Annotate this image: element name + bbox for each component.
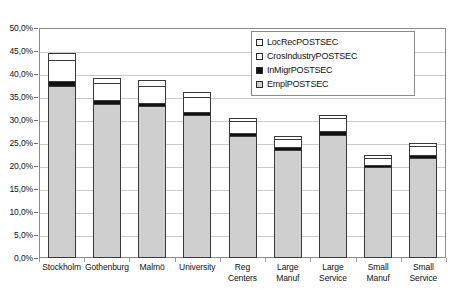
y-tick-mark (34, 28, 38, 29)
y-tick-mark (34, 97, 38, 98)
x-tick-mark (39, 258, 40, 262)
y-tick-mark (34, 51, 38, 52)
x-tick-label: Gothenburg (84, 262, 129, 273)
y-tick-mark (34, 212, 38, 213)
x-tick-label-line1: Large (265, 262, 310, 273)
x-tick-label-line1: Small (356, 262, 401, 273)
y-tick-label: 50,0% (9, 24, 33, 33)
x-tick-mark (220, 258, 221, 262)
legend-label: EmplPOSTSEC (267, 79, 328, 89)
x-tick-label: SmallService (401, 262, 446, 283)
legend-item[interactable]: CrosIndustryPOSTSEC (256, 49, 410, 63)
bar-segment-crosindustrypostsec[interactable] (48, 60, 76, 81)
x-tick-label: RegCenters (220, 262, 265, 283)
bar-stack[interactable] (364, 155, 392, 258)
y-tick-mark (34, 258, 38, 259)
x-tick-mark (356, 258, 357, 262)
x-tick-label: SmallManuf (356, 262, 401, 283)
y-tick-label: 45,0% (9, 47, 33, 56)
bar-stack[interactable] (409, 143, 437, 258)
y-tick-label: 35,0% (9, 93, 33, 102)
bar-stack[interactable] (93, 78, 121, 258)
white-square-icon (256, 53, 263, 60)
bar-stack[interactable] (183, 92, 211, 258)
legend-label: LocRecPOSTSEC (267, 37, 338, 47)
bar-segment-crosindustrypostsec[interactable] (274, 139, 302, 147)
bar-segment-crosindustrypostsec[interactable] (183, 97, 211, 112)
x-tick-label-line1: Malmö (129, 262, 174, 273)
x-tick-mark (401, 258, 402, 262)
x-tick-label: LargeService (310, 262, 355, 283)
x-tick-mark (446, 258, 447, 262)
x-tick-label: Malmö (129, 262, 174, 273)
y-tick-label: 10,0% (9, 208, 33, 217)
y-tick-label: 5,0% (14, 231, 33, 240)
y-tick-label: 40,0% (9, 70, 33, 79)
bar-segment-crosindustrypostsec[interactable] (138, 86, 166, 103)
bar-segment-locrecpostsec[interactable] (48, 53, 76, 60)
legend-item[interactable]: EmplPOSTSEC (256, 77, 410, 91)
y-tick-label: 20,0% (9, 162, 33, 171)
x-tick-label-line2: Centers (220, 273, 265, 284)
bar-segment-crosindustrypostsec[interactable] (409, 146, 437, 155)
x-tick-label-line1: University (175, 262, 220, 273)
y-tick-label: 15,0% (9, 185, 33, 194)
x-tick-mark (175, 258, 176, 262)
bar-segment-emplpostsec[interactable] (319, 135, 347, 258)
y-tick-mark (34, 74, 38, 75)
x-tick-label-line1: Stockholm (39, 262, 84, 273)
x-tick-mark (129, 258, 130, 262)
bar-segment-emplpostsec[interactable] (138, 106, 166, 258)
x-tick-label-line2: Manuf (356, 273, 401, 284)
x-tick-label-line2: Manuf (265, 273, 310, 284)
y-tick-mark (34, 235, 38, 236)
bar-segment-emplpostsec[interactable] (409, 158, 437, 258)
y-tick-label: 25,0% (9, 139, 33, 148)
bar-stack[interactable] (319, 115, 347, 258)
x-tick-label-line2: Service (310, 273, 355, 284)
y-axis: 50,0%45,0%40,0%35,0%30,0%25,0%20,0%15,0%… (0, 28, 38, 258)
x-tick-label-line1: Reg (220, 262, 265, 273)
white-square-icon (256, 39, 263, 46)
x-tick-mark (310, 258, 311, 262)
x-tick-label-line1: Small (401, 262, 446, 273)
x-tick-mark (265, 258, 266, 262)
bar-segment-emplpostsec[interactable] (183, 115, 211, 258)
speckled-square-icon (256, 81, 263, 88)
legend-label: CrosIndustryPOSTSEC (267, 51, 357, 61)
y-tick-mark (34, 143, 38, 144)
chart-legend: LocRecPOSTSECCrosIndustryPOSTSECInMigrPO… (251, 31, 415, 96)
stacked-bar-chart: 50,0%45,0%40,0%35,0%30,0%25,0%20,0%15,0%… (0, 0, 454, 295)
bar-stack[interactable] (229, 118, 257, 258)
bar-segment-crosindustrypostsec[interactable] (364, 158, 392, 165)
legend-label: InMigrPOSTSEC (267, 65, 332, 75)
bar-segment-emplpostsec[interactable] (93, 104, 121, 258)
bar-segment-emplpostsec[interactable] (364, 167, 392, 258)
x-tick-label: Stockholm (39, 262, 84, 273)
legend-item[interactable]: InMigrPOSTSEC (256, 63, 410, 77)
y-tick-mark (34, 120, 38, 121)
black-square-icon (256, 67, 263, 74)
x-tick-label-line2: Service (401, 273, 446, 284)
x-tick-label-line1: Large (310, 262, 355, 273)
bar-segment-crosindustrypostsec[interactable] (229, 121, 257, 133)
x-axis: StockholmGothenburgMalmöUniversityRegCen… (39, 262, 446, 295)
x-tick-label: LargeManuf (265, 262, 310, 283)
bar-stack[interactable] (48, 53, 76, 258)
bar-stack[interactable] (138, 80, 166, 258)
y-tick-mark (34, 166, 38, 167)
bar-segment-crosindustrypostsec[interactable] (93, 83, 121, 100)
x-tick-label-line1: Gothenburg (84, 262, 129, 273)
legend-item[interactable]: LocRecPOSTSEC (256, 35, 410, 49)
bar-segment-emplpostsec[interactable] (48, 86, 76, 259)
y-tick-mark (34, 189, 38, 190)
bar-segment-crosindustrypostsec[interactable] (319, 118, 347, 131)
y-tick-label: 0,0% (14, 254, 33, 263)
x-tick-mark (84, 258, 85, 262)
bar-segment-emplpostsec[interactable] (229, 136, 257, 258)
bar-stack[interactable] (274, 136, 302, 258)
y-tick-label: 30,0% (9, 116, 33, 125)
bar-segment-emplpostsec[interactable] (274, 150, 302, 258)
x-tick-label: University (175, 262, 220, 273)
